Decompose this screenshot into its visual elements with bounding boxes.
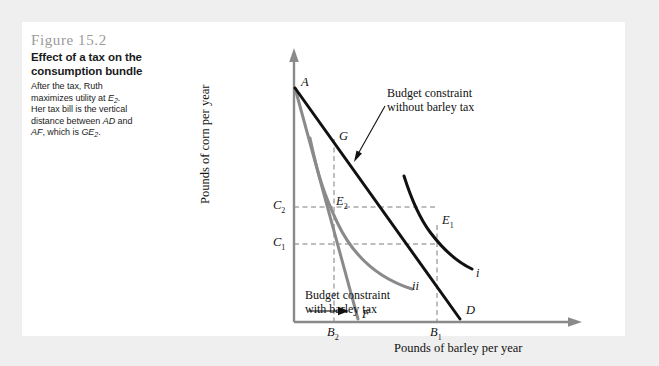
figure-title: Effect of a tax on the consumption bundl… [31,51,159,78]
x-axis-arrowhead [568,317,582,327]
point-label-g: G [339,129,348,144]
figure-description: After the tax, Ruth maximizes utility at… [31,81,159,139]
figure-number: Figure 15.2 [31,32,159,49]
description-ge-subscript: 2 [94,131,98,138]
description-line-4: distance between AD and [31,116,159,128]
curve-ii-label: ii [412,279,419,294]
point-label-e2-subscript: 2 [344,202,348,211]
no-tax-annotation-line-1: Budget constraint [387,86,474,100]
point-label-e1: E1 [442,213,454,230]
y-tick-c2-subscript: 2 [281,206,285,215]
x-tick-b1: B1 [430,325,442,342]
description-line-1: After the tax, Ruth [31,81,159,93]
description-af-symbol: AF [31,127,42,137]
chart-svg [172,26,612,336]
description-line-4-text: distance between [31,116,103,126]
y-tick-c1-subscript: 1 [281,243,285,252]
description-line-2-text: maximizes utility at [31,93,108,103]
description-line-5: AF, which is GE2. [31,127,159,139]
figure-page: Figure 15.2 Effect of a tax on the consu… [0,0,659,366]
tax-annotation: Budget constraint with barley tax [305,288,390,316]
description-line-2-period: . [118,93,120,103]
budget-line-af [295,88,358,319]
point-label-a: A [301,75,309,90]
y-tick-c2: C2 [273,198,285,215]
point-label-e1-subscript: 1 [450,221,454,230]
figure-panel: Figure 15.2 Effect of a tax on the consu… [22,22,625,336]
description-line-2: maximizes utility at E2. [31,93,159,105]
x-axis-label: Pounds of barley per year [394,341,522,356]
x-tick-b1-subscript: 1 [438,333,442,342]
curve-i-label: i [476,266,479,281]
x-tick-b2: B2 [327,325,339,342]
point-label-e2: E2 [336,194,348,211]
y-tick-c1: C1 [273,235,285,252]
no-tax-annotation-line-2: without barley tax [387,100,474,114]
tax-annotation-line-2: with barley tax [305,302,390,316]
chart-area: Pounds of corn per year Pounds of barley… [172,26,612,336]
y-axis-arrowhead [289,48,299,62]
description-line-4-tail: and [115,116,132,126]
y-axis-label: Pounds of corn per year [198,85,213,204]
indifference-curve-ii [310,138,412,289]
no-tax-annotation: Budget constraint without barley tax [387,86,474,114]
description-line-3: Her tax bill is the vertical [31,104,159,116]
figure-title-line-2: consumption bundle [31,65,159,79]
x-tick-b2-subscript: 2 [335,333,339,342]
description-ad-symbol: AD [103,116,115,126]
tax-annotation-line-1: Budget constraint [305,288,390,302]
point-label-d: D [466,303,475,318]
description-line-5-period: . [98,127,100,137]
figure-title-line-1: Effect of a tax on the [31,51,159,65]
figure-caption: Figure 15.2 Effect of a tax on the consu… [31,32,159,139]
budget-line-ad [295,88,460,319]
description-e2-subscript: 2 [114,97,118,104]
description-line-5-text: , which is [42,127,81,137]
no-tax-annotation-arrow [354,106,385,162]
description-ge-symbol: GE [81,127,94,137]
